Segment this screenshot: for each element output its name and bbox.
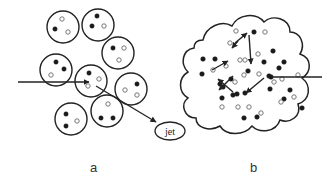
- quark-open: [75, 119, 79, 123]
- quark-filled: [271, 49, 276, 54]
- quark-open: [220, 105, 224, 109]
- quark-filled: [242, 116, 247, 121]
- nucleon: [47, 11, 79, 43]
- quark-open: [272, 80, 276, 84]
- quark-open: [66, 30, 70, 34]
- quark-open: [236, 105, 240, 109]
- nucleon: [102, 37, 134, 69]
- quark-filled: [111, 116, 115, 120]
- quark-open: [135, 93, 139, 97]
- quark-open: [86, 84, 90, 88]
- quark-open: [117, 58, 121, 62]
- nucleon: [75, 65, 107, 97]
- quark-filled: [220, 96, 225, 101]
- quark-filled: [64, 124, 68, 128]
- figure-canvas: jet: [0, 0, 334, 183]
- quark-open: [60, 17, 64, 21]
- quark-open: [122, 46, 126, 50]
- quark-open: [247, 105, 251, 109]
- panel-b-caption: b: [250, 160, 257, 175]
- quark-filled: [282, 60, 287, 65]
- quark-open: [97, 77, 101, 81]
- quark-filled: [64, 112, 68, 116]
- quark-open: [259, 111, 263, 115]
- quark-filled: [252, 30, 257, 35]
- quark-open: [49, 73, 53, 77]
- quark-filled: [231, 93, 236, 98]
- quark-open: [102, 24, 106, 28]
- quark-filled: [268, 87, 273, 92]
- quark-filled: [300, 106, 305, 111]
- panel-a-caption: a: [90, 160, 97, 175]
- quark-open: [238, 58, 242, 62]
- quark-open: [233, 80, 237, 84]
- jet-label: jet: [164, 126, 175, 137]
- quark-open: [256, 52, 260, 56]
- quark-open: [257, 72, 261, 76]
- quark-filled: [90, 24, 94, 28]
- quark-filled: [62, 67, 66, 71]
- quark-filled: [87, 71, 91, 75]
- quark-filled: [267, 74, 272, 79]
- quark-filled: [99, 116, 103, 120]
- quark-filled: [53, 27, 57, 31]
- quark-filled: [201, 57, 206, 62]
- quark-open: [123, 88, 127, 92]
- quark-open: [242, 73, 246, 77]
- panel-a-nucleons: [40, 9, 147, 135]
- quark-open: [279, 100, 283, 104]
- quark-filled: [95, 14, 99, 18]
- quark-open: [224, 64, 228, 68]
- quark-open: [243, 58, 247, 62]
- quark-filled: [213, 57, 218, 62]
- quark-open: [106, 102, 110, 106]
- quark-filled: [277, 66, 282, 71]
- quark-open: [228, 41, 232, 45]
- nucleon: [55, 103, 87, 135]
- quark-filled: [135, 82, 139, 86]
- quark-open: [263, 30, 267, 34]
- quark-filled: [54, 60, 58, 64]
- quark-filled: [262, 60, 267, 65]
- quark-filled: [288, 88, 293, 93]
- quark-open: [234, 29, 238, 33]
- quark-open: [292, 95, 296, 99]
- quark-filled: [200, 72, 205, 77]
- quark-filled: [246, 69, 251, 74]
- quark-filled: [111, 46, 115, 50]
- quark-filled: [255, 115, 260, 120]
- nucleon: [40, 54, 72, 86]
